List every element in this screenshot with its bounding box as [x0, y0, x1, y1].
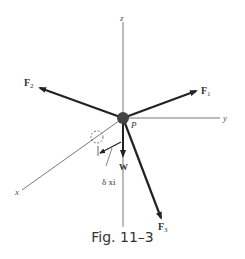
- displacement-label: δ xi: [102, 177, 116, 187]
- virtual-displacement-arrow: [100, 142, 121, 153]
- z-axis-label: z: [119, 13, 124, 23]
- force-diagram: z y x P F1 F2 F3 W δ xi: [0, 0, 245, 259]
- weight-label: W: [119, 162, 128, 172]
- force-f1-arrow: [123, 91, 196, 118]
- x-axis-label: x: [14, 187, 19, 197]
- force-f3-arrow: [123, 118, 161, 218]
- f2-label: F2: [24, 77, 34, 90]
- particle-p: [117, 112, 129, 124]
- force-f2-arrow: [40, 88, 123, 118]
- f1-label: F1: [201, 85, 211, 98]
- displacement-leader: [106, 148, 112, 166]
- y-axis-label: y: [222, 113, 227, 123]
- figure-caption: Fig. 11–3: [0, 229, 245, 245]
- point-p-label: P: [130, 120, 137, 130]
